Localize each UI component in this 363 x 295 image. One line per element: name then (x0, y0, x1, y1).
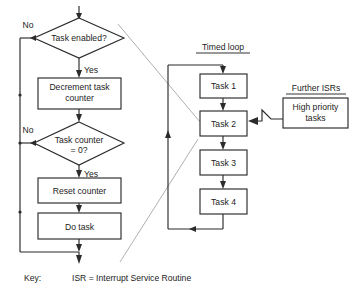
flowchart-diagram: Task enabled? No Yes Decrement task coun… (0, 0, 363, 295)
key-label: Key: (24, 273, 41, 283)
arrow-reset-to-do-task (76, 203, 82, 213)
decision-task-enabled: Task enabled? (34, 18, 124, 58)
junction-dot-lower (18, 210, 21, 213)
branch-no-2 (18, 140, 36, 146)
decision-task-counter-zero-label-1: Task counter (55, 135, 104, 145)
decision-task-counter-zero: Task counter = 0? (34, 122, 124, 165)
isr-interrupt-arrow (248, 110, 283, 125)
process-decrement-task-counter-label-1: Decrement task (49, 82, 110, 92)
process-do-task: Do task (38, 213, 121, 239)
timed-loop-task-3-label: Task 3 (211, 158, 236, 168)
edge-label-yes-1: Yes (84, 65, 98, 75)
process-decrement-task-counter-label-2: counter (65, 93, 94, 103)
arrow-task-3-to-task-4 (220, 175, 226, 189)
process-reset-counter: Reset counter (38, 178, 121, 203)
flowchart-canvas: Task enabled? No Yes Decrement task coun… (0, 0, 363, 295)
timed-loop-task-1: Task 1 (200, 74, 247, 98)
process-reset-counter-label: Reset counter (53, 186, 107, 196)
arrow-do-task-to-merge (76, 239, 82, 252)
arrow-task-2-to-task-3 (220, 136, 226, 150)
further-isrs-title: Further ISRs (292, 83, 341, 93)
key-definition: ISR = Interrupt Service Routine (72, 273, 191, 283)
junction-dot-upper (18, 93, 21, 96)
edge-label-no-1: No (23, 20, 34, 30)
high-priority-tasks-box: High priority tasks (283, 98, 348, 128)
timed-loop-task-2: Task 2 (200, 111, 247, 136)
arrow-decrement-to-decision-2 (76, 109, 82, 122)
process-decrement-task-counter: Decrement task counter (38, 78, 121, 109)
branch-yes-1 (76, 58, 82, 78)
callout-guide-upper (118, 24, 200, 122)
branch-yes-2 (76, 165, 82, 178)
arrow-task-1-to-task-2 (220, 98, 226, 111)
timed-loop-task-4: Task 4 (200, 189, 247, 214)
callout-guide-lower (120, 139, 198, 262)
decision-task-enabled-label: Task enabled? (51, 33, 107, 43)
process-do-task-label: Do task (65, 222, 95, 232)
timed-loop-task-1-label: Task 1 (211, 81, 236, 91)
high-priority-tasks-label-1: High priority (293, 102, 340, 112)
merge-and-exit (20, 252, 82, 264)
edge-label-no-2: No (23, 125, 34, 135)
timed-loop-task-4-label: Task 4 (211, 197, 236, 207)
decision-task-counter-zero-label-2: = 0? (71, 145, 88, 155)
timed-loop-feed (168, 65, 226, 74)
timed-loop-task-3: Task 3 (200, 150, 247, 175)
timed-loop-task-2-label: Task 2 (211, 119, 236, 129)
high-priority-tasks-label-2: tasks (305, 113, 325, 123)
timed-loop-title: Timed loop (202, 42, 244, 52)
